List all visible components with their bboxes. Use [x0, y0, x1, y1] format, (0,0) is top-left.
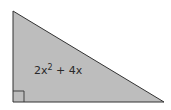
triangle-shape	[13, 11, 164, 102]
right-triangle-diagram	[0, 0, 171, 110]
label-term-1: 2x	[34, 64, 48, 77]
area-expression-label: 2x2 + 4x	[34, 64, 82, 78]
label-term-2: + 4x	[53, 64, 83, 77]
